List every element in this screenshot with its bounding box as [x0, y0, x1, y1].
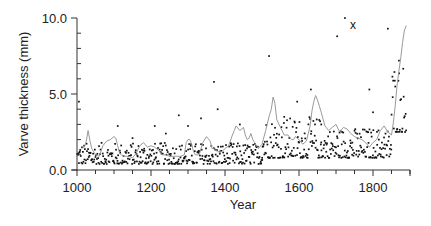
data-point [356, 133, 358, 135]
data-point [360, 147, 362, 149]
data-point [223, 155, 225, 157]
data-point [337, 145, 339, 147]
data-point [78, 162, 80, 164]
data-point [157, 147, 159, 149]
data-point [372, 129, 374, 131]
data-point [277, 157, 279, 159]
data-point [148, 157, 150, 159]
data-point [224, 158, 226, 160]
data-point [169, 162, 171, 164]
data-point [386, 154, 388, 156]
data-point [87, 148, 89, 150]
data-point [401, 131, 403, 133]
x-axis-label: Year [230, 197, 257, 212]
data-point [344, 17, 346, 19]
data-point [84, 159, 86, 161]
data-point [217, 108, 219, 110]
data-point [115, 149, 117, 151]
data-point [388, 136, 390, 138]
data-point [286, 119, 288, 121]
data-point [173, 157, 175, 159]
data-point [385, 133, 387, 135]
data-point [256, 156, 258, 158]
data-point [84, 148, 86, 150]
data-point [231, 143, 233, 145]
data-point [371, 136, 373, 138]
data-point [225, 144, 227, 146]
data-point [232, 160, 234, 162]
data-point [210, 161, 212, 163]
data-point [358, 150, 360, 152]
data-point [186, 162, 188, 164]
data-point [147, 161, 149, 163]
data-point [287, 156, 289, 158]
data-point [337, 137, 339, 139]
data-point [244, 144, 246, 146]
data-point [132, 143, 134, 145]
data-point [396, 128, 398, 130]
data-point [82, 163, 84, 165]
data-point [177, 163, 179, 165]
data-point [113, 160, 115, 162]
data-point [321, 150, 323, 152]
y-tick-label: 0.0 [49, 163, 67, 178]
data-point [390, 144, 392, 146]
data-point [148, 155, 150, 157]
data-point [180, 163, 182, 165]
data-point [98, 145, 100, 147]
data-point [362, 150, 364, 152]
data-point [138, 163, 140, 165]
data-point [216, 163, 218, 165]
data-point [235, 154, 237, 156]
data-point [349, 145, 351, 147]
data-point [275, 137, 277, 139]
data-point [91, 158, 93, 160]
data-point [354, 128, 356, 130]
data-point [290, 153, 292, 155]
data-point [294, 122, 296, 124]
data-point [283, 157, 285, 159]
data-point [92, 153, 94, 155]
data-point [391, 114, 393, 116]
data-point [397, 131, 399, 133]
data-point [297, 147, 299, 149]
data-point [362, 152, 364, 154]
data-point [387, 140, 389, 142]
data-point [239, 124, 241, 126]
data-point [320, 142, 322, 144]
data-point [83, 161, 85, 163]
data-point [206, 155, 208, 157]
data-point [187, 125, 189, 127]
data-point [251, 153, 253, 155]
data-point [305, 155, 307, 157]
data-point [347, 150, 349, 152]
data-point [307, 157, 309, 159]
data-point [139, 151, 141, 153]
data-point [169, 153, 171, 155]
data-point [156, 152, 158, 154]
data-point [377, 155, 379, 157]
data-point [245, 149, 247, 151]
data-point [319, 120, 321, 122]
data-point [338, 156, 340, 158]
data-point [403, 96, 405, 98]
data-point [396, 131, 398, 133]
data-point [369, 89, 371, 91]
data-point [236, 158, 238, 160]
data-point [277, 144, 279, 146]
data-point [250, 163, 252, 165]
data-point [202, 155, 204, 157]
data-point [257, 152, 259, 154]
data-point [384, 148, 386, 150]
data-point [329, 149, 331, 151]
data-point [280, 157, 282, 159]
data-point [351, 147, 353, 149]
data-point [317, 157, 319, 159]
data-point [237, 158, 239, 160]
data-point [275, 142, 277, 144]
data-point [327, 155, 329, 157]
data-point [378, 139, 380, 141]
data-point [231, 153, 233, 155]
data-point [222, 146, 224, 148]
data-point [353, 152, 355, 154]
